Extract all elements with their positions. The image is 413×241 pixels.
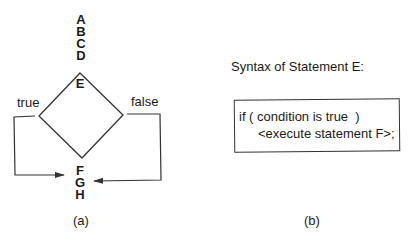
true-label: true: [17, 95, 39, 110]
false-branch-arrow: [94, 114, 161, 181]
true-branch-arrow: [14, 116, 64, 175]
statement-h: H: [70, 189, 90, 201]
false-label: false: [131, 94, 158, 109]
code-line-1: if ( condition is true ): [239, 109, 360, 124]
syntax-title: Syntax of Statement E:: [231, 59, 364, 74]
bottom-statements: F G H: [70, 165, 90, 201]
decision-label: E: [70, 78, 90, 90]
code-line-2: <execute statement F>;: [258, 126, 395, 141]
caption-a: (a): [73, 213, 89, 228]
caption-b: (b): [304, 213, 320, 228]
